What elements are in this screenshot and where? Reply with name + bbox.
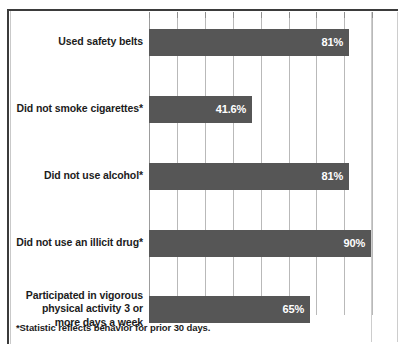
bar-category-label-line: Used safety belts xyxy=(12,35,143,49)
tick-1 xyxy=(177,12,178,18)
tick-5 xyxy=(289,12,290,18)
tick-6 xyxy=(316,12,317,18)
bar-category-label: Did not use alcohol* xyxy=(12,169,143,183)
tick-2 xyxy=(205,12,206,18)
bar-category-label: Did not use an illicit drug* xyxy=(12,236,143,250)
page-frame-left-inner-line xyxy=(10,11,11,344)
bar-category-label-line: physical activity 3 or xyxy=(12,302,143,316)
page-frame-top-border xyxy=(7,9,398,11)
chart-footnote: *Statistic reflects behavior for prior 3… xyxy=(16,322,210,333)
tick-8 xyxy=(372,12,373,18)
bar-category-label-line: Did not use alcohol* xyxy=(12,169,143,183)
tick-4 xyxy=(261,12,262,18)
tick-3 xyxy=(233,12,234,18)
bar: 81% xyxy=(149,29,349,56)
tick-7 xyxy=(344,12,345,18)
bar-category-label: Did not smoke cigarettes* xyxy=(12,102,143,116)
bar-value-label: 81% xyxy=(322,170,349,182)
tick-0 xyxy=(149,12,150,18)
bar-value-label: 81% xyxy=(322,36,349,48)
bar-category-label: Used safety belts xyxy=(12,35,143,49)
page-edge-artifact-line-2 xyxy=(397,12,398,342)
bar-category-label-line: Participated in vigorous xyxy=(12,289,143,303)
page-frame-left-border xyxy=(7,9,9,344)
bar-category-label-line: Did not use an illicit drug* xyxy=(12,236,143,250)
bar: 81% xyxy=(149,163,349,190)
bar-value-label: 90% xyxy=(344,237,371,249)
chart-figure: Used safety belts81%Did not smoke cigare… xyxy=(0,0,403,344)
bar-value-label: 41.6% xyxy=(216,103,252,115)
bar-category-label-line: Did not smoke cigarettes* xyxy=(12,102,143,116)
plot-area: Used safety belts81%Did not smoke cigare… xyxy=(149,18,398,315)
page-edge-artifact-line-1 xyxy=(371,12,372,342)
bar-value-label: 65% xyxy=(283,303,310,315)
bar: 90% xyxy=(149,230,371,257)
bar: 41.6% xyxy=(149,96,252,123)
bar: 65% xyxy=(149,296,310,323)
gridline-8 xyxy=(372,18,373,315)
